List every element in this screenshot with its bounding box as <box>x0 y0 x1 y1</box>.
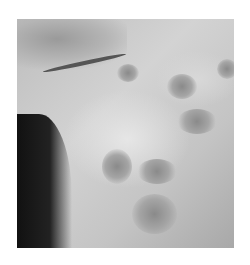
lesion <box>102 149 132 184</box>
lesion <box>137 159 177 184</box>
shadow-region <box>17 114 72 248</box>
lesion <box>132 194 177 234</box>
lesion <box>177 109 217 134</box>
caption <box>10 254 240 260</box>
lesion <box>117 64 139 82</box>
lip-region <box>17 19 127 89</box>
lesion <box>217 59 234 79</box>
lesion <box>167 74 197 99</box>
clinical-photo <box>17 19 234 248</box>
